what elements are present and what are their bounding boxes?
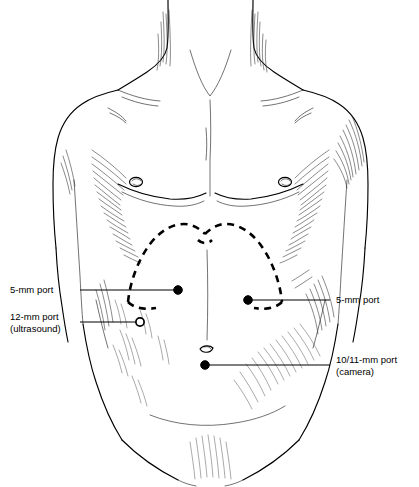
torso-illustration: 5-mm port 12-mm port (ultrasound) 5-mm p… <box>0 0 419 487</box>
abdomen-group <box>96 250 334 425</box>
nipple-right <box>279 177 292 186</box>
label-port-12mm-line1: 12-mm port <box>10 311 59 322</box>
abdomen-hatching-right <box>234 324 320 409</box>
deltoid-hatching-left <box>61 150 75 194</box>
costal-margin-dashed <box>128 224 282 309</box>
annotation-port-12mm-ultrasound[interactable]: 12-mm port (ultrasound) <box>10 311 144 334</box>
pectoral-group <box>92 100 329 288</box>
pectoral-hatching-right <box>280 150 329 288</box>
port-marker-5mm-right[interactable] <box>244 296 253 305</box>
label-port-12mm-line2: (ultrasound) <box>10 323 61 334</box>
nipple-left <box>130 177 143 186</box>
label-port-1011mm-line1: 10/11-mm port <box>336 354 397 365</box>
abdomen-hatching-left <box>113 300 169 406</box>
flank-hatching-right <box>306 276 334 334</box>
port-marker-5mm-left[interactable] <box>174 286 183 295</box>
pubic-hatching <box>190 435 231 479</box>
pelvis-group <box>122 435 299 486</box>
pectoral-hatching-left <box>92 150 141 263</box>
annotation-port-5mm-left[interactable]: 5-mm port <box>10 284 182 295</box>
neck-group <box>118 0 303 96</box>
deltoid-hatching-right <box>334 116 364 188</box>
port-marker-1011mm-camera[interactable] <box>201 361 210 370</box>
port-placement-figure: 5-mm port 12-mm port (ultrasound) 5-mm p… <box>0 0 419 487</box>
annotation-port-5mm-right[interactable]: 5-mm port <box>244 294 380 305</box>
label-port-5mm-right-line1: 5-mm port <box>336 294 380 305</box>
label-port-1011mm-line2: (camera) <box>336 366 374 377</box>
umbilicus <box>200 346 213 352</box>
annotation-port-1011mm-camera[interactable]: 10/11-mm port (camera) <box>201 354 398 377</box>
port-marker-12mm-ultrasound[interactable] <box>136 318 144 326</box>
label-port-5mm-left-line1: 5-mm port <box>10 284 54 295</box>
